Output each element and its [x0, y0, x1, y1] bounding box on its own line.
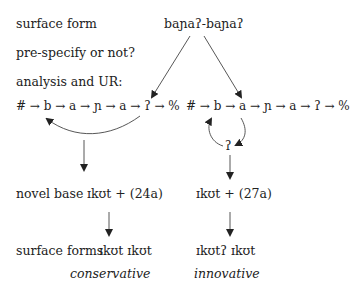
label-conservative: conservative — [70, 267, 150, 281]
arrow-right-loop-up — [209, 119, 223, 146]
label-surface-forms: surface forms — [16, 244, 103, 258]
arrow-left-loop — [47, 116, 140, 134]
right-base: ɪkʊt + (27a) — [196, 187, 272, 201]
right-surface: ɪkʊtʔ ɪkʊt — [196, 244, 255, 258]
right-chain: # → b → a → ɲ → a → ʔ → % — [186, 99, 350, 113]
arrow-top-right — [204, 36, 241, 97]
arrow-top-left — [152, 36, 190, 97]
left-base: ɪkʊt + (24a) — [87, 187, 163, 201]
left-chain: # → b → a → ɲ → a → ʔ → % — [16, 99, 180, 113]
label-surface-form: surface form — [16, 17, 97, 31]
top-surface-form: baɲaʔ-baɲaʔ — [164, 17, 244, 31]
label-analysis: analysis and UR: — [16, 75, 122, 89]
right-loop-node: ʔ — [225, 139, 231, 153]
arrow-right-loop-down — [236, 118, 245, 145]
left-surface: ɪkʊt ɪkʊt — [99, 244, 152, 258]
label-novel-base: novel base — [16, 187, 83, 201]
label-prespecify: pre-specify or not? — [16, 46, 135, 60]
label-innovative: innovative — [194, 267, 260, 281]
